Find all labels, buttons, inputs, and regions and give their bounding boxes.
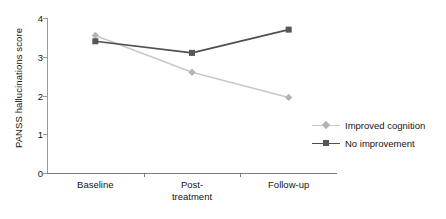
- x-axis-line: [47, 173, 337, 174]
- data-point-marker: [92, 32, 99, 39]
- y-tick-label: 2: [38, 90, 43, 101]
- x-tick-label: Post-treatment: [172, 179, 212, 202]
- legend-label: No improvement: [345, 138, 415, 149]
- legend-marker-diamond-icon: [322, 121, 330, 129]
- data-point-marker: [286, 27, 292, 33]
- legend-item[interactable]: Improved cognition: [312, 116, 446, 134]
- x-tick-label: Baseline: [77, 179, 113, 191]
- x-tick-mark: [240, 173, 241, 177]
- x-tick-label-line: Baseline: [77, 179, 113, 191]
- data-point-marker: [92, 38, 98, 44]
- legend-marker-square-icon: [323, 140, 329, 146]
- chart-legend: Improved cognitionNo improvement: [312, 116, 446, 152]
- data-point-marker: [188, 69, 195, 76]
- y-tick-mark: [43, 173, 47, 174]
- series-line-no-improvement: [95, 30, 288, 53]
- x-tick-label: Follow-up: [268, 179, 309, 191]
- y-tick: 0: [47, 173, 48, 174]
- legend-swatch: [312, 137, 340, 149]
- x-tick-label-line: treatment: [172, 191, 212, 203]
- series-layer: [47, 18, 337, 173]
- plot-area: 01234 BaselinePost-treatmentFollow-up: [47, 18, 337, 173]
- panss-hallucinations-line-chart: PANSS hallucinations score 01234 Baselin…: [0, 0, 446, 219]
- data-point-marker: [285, 94, 292, 101]
- data-point-marker: [189, 50, 195, 56]
- x-tick-label-line: Follow-up: [268, 179, 309, 191]
- y-axis-title: PANSS hallucinations score: [10, 0, 28, 178]
- legend-label: Improved cognition: [345, 120, 425, 131]
- y-tick-label: 0: [38, 168, 43, 179]
- y-tick-label: 1: [38, 129, 43, 140]
- legend-swatch: [312, 119, 340, 131]
- y-tick-label: 3: [38, 51, 43, 62]
- y-tick-label: 4: [38, 13, 43, 24]
- legend-item[interactable]: No improvement: [312, 134, 446, 152]
- x-tick-mark: [144, 173, 145, 177]
- x-tick-label-line: Post-: [172, 179, 212, 191]
